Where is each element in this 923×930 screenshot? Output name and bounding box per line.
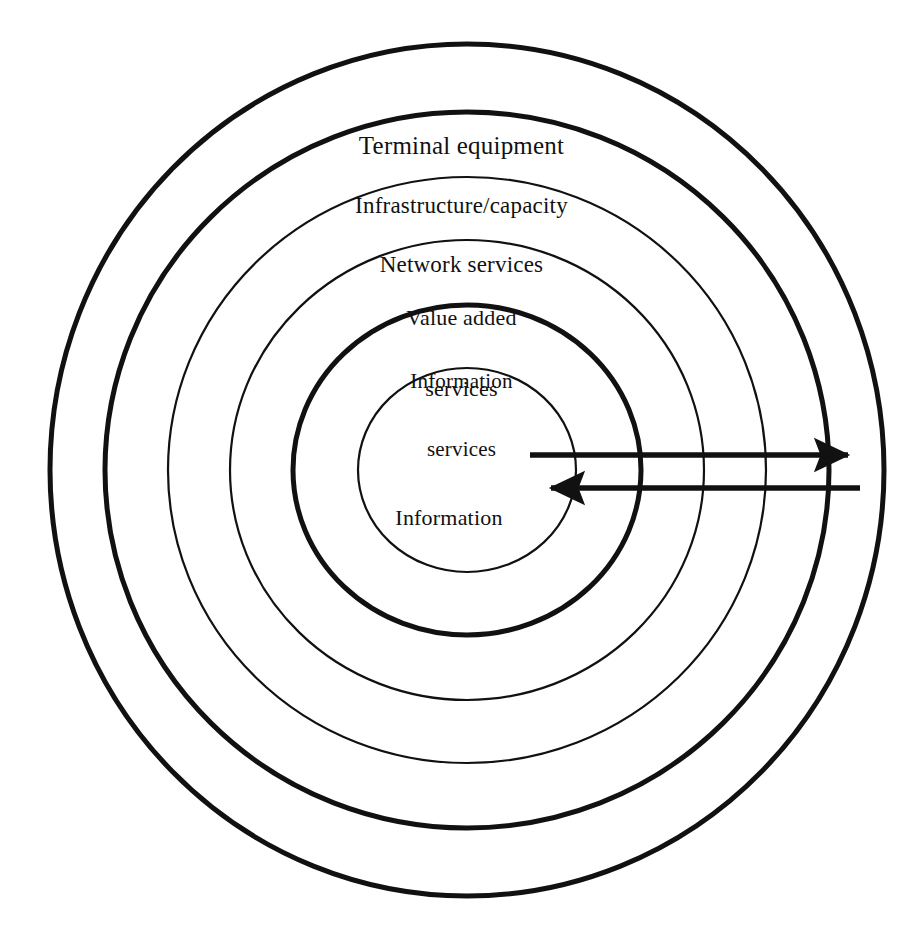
- label-information-core: Information: [0, 458, 898, 577]
- label-information-core-line-1: Information: [0, 506, 898, 530]
- concentric-rings-diagram: Terminal equipment Infrastructure/capaci…: [0, 0, 923, 930]
- label-information-services-line-1: Information: [0, 370, 923, 393]
